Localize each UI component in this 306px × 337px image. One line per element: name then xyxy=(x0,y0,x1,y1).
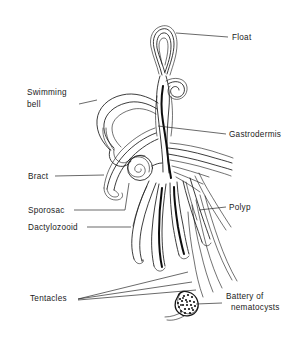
battery-of-nematocysts-shape xyxy=(175,291,198,316)
leader-line-float xyxy=(176,33,228,37)
leader-line-tentacles-b xyxy=(78,282,192,299)
leader-line-sporosac-b xyxy=(125,183,129,210)
label-swimming-bell: Swimming xyxy=(27,88,67,97)
label-gastrodermis: Gastrodermis xyxy=(229,130,281,139)
label-battery-of-nematocysts: Battery of xyxy=(226,292,264,301)
stolon-branches-shape xyxy=(168,143,233,192)
bract-shape xyxy=(104,128,158,200)
organism-drawing xyxy=(97,26,237,321)
label-bract: Bract xyxy=(28,172,49,181)
leader-line-tentacles-a xyxy=(78,272,188,299)
label-dactylozooid: Dactylozooid xyxy=(28,223,78,232)
label-swimming-bell-line2: bell xyxy=(27,100,41,109)
label-sporosac: Sporosac xyxy=(28,206,65,215)
nematocyst-stipple xyxy=(177,294,196,314)
label-tentacles: Tentacles xyxy=(30,294,67,303)
leader-line-polyp xyxy=(199,207,226,210)
leader-line-gastrodermis xyxy=(158,126,226,134)
float-shape xyxy=(150,26,177,75)
leader-line-swimming-bell xyxy=(79,100,97,104)
leader-line-bract xyxy=(55,175,104,176)
labels: Float Swimming bell Gastrodermis Bract S… xyxy=(27,33,281,312)
label-battery-of-nematocysts-line2: nematocysts xyxy=(231,303,280,312)
zooid-cluster-shape xyxy=(132,173,231,271)
sporosac-shape xyxy=(128,155,163,180)
label-float: Float xyxy=(232,33,252,42)
leader-line-battery xyxy=(196,303,222,304)
label-polyp: Polyp xyxy=(229,203,251,212)
siphonophore-diagram: Float Swimming bell Gastrodermis Bract S… xyxy=(0,0,306,337)
